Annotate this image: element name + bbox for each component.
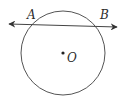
point-label-a: A [26, 8, 36, 22]
center-label-o: O [67, 51, 77, 65]
center-point-o [61, 51, 64, 54]
geometry-diagram: A B O [0, 0, 124, 104]
secant-line-ab [9, 24, 117, 27]
point-label-b: B [99, 8, 109, 22]
diagram-svg: A B O [0, 0, 124, 104]
